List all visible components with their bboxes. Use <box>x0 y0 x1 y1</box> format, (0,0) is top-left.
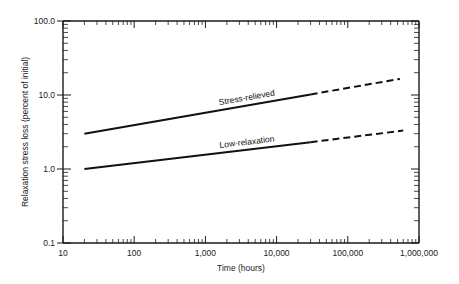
x-axis-title: Time (hours) <box>217 263 265 273</box>
series-label-stress-relieved: Stress-relieved <box>218 88 276 108</box>
series-low-relaxation: Low-relaxation <box>84 131 403 169</box>
x-tick-label: 1,000 <box>195 248 217 258</box>
x-tick-label: 10,000 <box>264 248 290 258</box>
y-tick-label: 0.1 <box>43 238 55 248</box>
series-stress-relieved: Stress-relieved <box>84 79 400 134</box>
x-tick-label: 100 <box>127 248 141 258</box>
y-tick-label: 100.0 <box>34 16 56 26</box>
x-tick-label: 1,000,000 <box>400 248 438 258</box>
major-ticks <box>57 21 419 243</box>
y-tick-label: 1.0 <box>43 164 55 174</box>
chart: 101001,00010,000100,0001,000,0000.11.010… <box>0 0 459 284</box>
y-axis-title: Relaxation stress loss (percent of initi… <box>20 57 30 207</box>
series-line-stress-relieved-solid <box>84 94 310 133</box>
x-tick-label: 10 <box>58 248 68 258</box>
series-line-low-relaxation-solid <box>84 142 310 169</box>
series-line-low-relaxation-dashed <box>311 131 404 143</box>
series: Stress-relievedLow-relaxation <box>84 79 403 169</box>
x-tick-label: 100,000 <box>332 248 363 258</box>
axes <box>63 21 419 243</box>
tick-labels: 101001,00010,000100,0001,000,0000.11.010… <box>34 16 438 258</box>
minor-ticks <box>63 21 419 243</box>
series-line-stress-relieved-dashed <box>311 79 400 95</box>
y-tick-label: 10.0 <box>38 90 55 100</box>
